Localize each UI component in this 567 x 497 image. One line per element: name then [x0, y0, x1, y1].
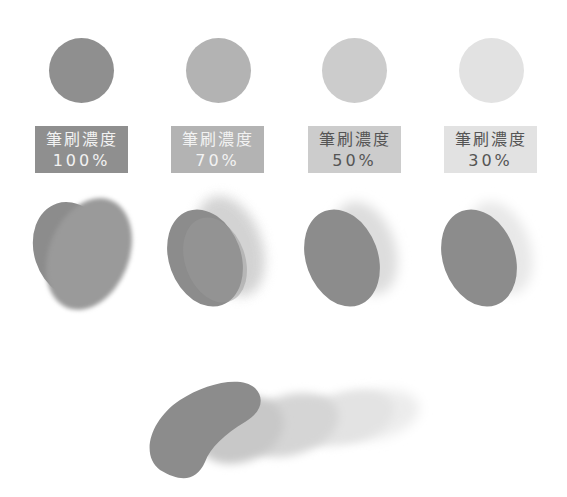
overlap-demo-70	[154, 186, 278, 317]
overlap-demo-30	[428, 193, 545, 318]
brush-illustrations	[0, 0, 567, 497]
stroke-fade-demo	[150, 381, 424, 479]
overlap-demo-50	[291, 193, 410, 318]
overlap-demo-100	[21, 185, 148, 323]
